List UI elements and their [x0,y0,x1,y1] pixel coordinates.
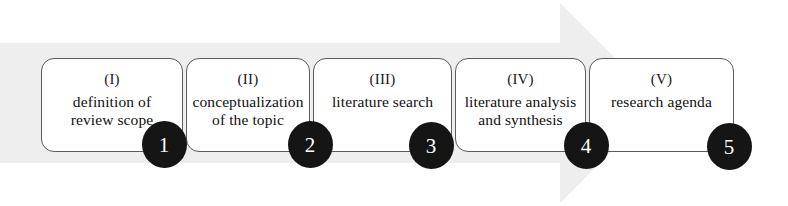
stage-3-roman-numeral: (III) [370,70,396,89]
stage-number-badge-3: 3 [409,122,454,169]
stage-number-badge-4-text: 4 [581,136,592,157]
stage-number-badge-4: 4 [564,122,609,169]
stage-1-roman-numeral: (I) [104,70,120,89]
stage-number-badge-5-text: 5 [724,137,735,158]
stage-2-label: conceptualization of the topic [192,93,303,129]
process-flow-diagram: (I) definition of review scope (II) conc… [0,0,788,206]
stage-4-label: literature analysis and synthesis [465,93,577,129]
stage-number-badge-2-text: 2 [305,135,316,156]
stage-number-badge-2: 2 [288,121,333,168]
stage-number-badge-1-text: 1 [159,135,170,156]
stage-1-label: definition of review scope [71,93,154,129]
stage-number-badge-1: 1 [142,121,187,168]
stage-5-label: research agenda [611,93,712,111]
stage-4-roman-numeral: (IV) [507,70,534,89]
stage-5-roman-numeral: (V) [651,70,672,89]
stage-number-badge-3-text: 3 [426,136,437,157]
stage-2-roman-numeral: (II) [238,70,259,89]
stage-3-label: literature search [332,93,433,111]
stage-number-badge-5: 5 [707,123,752,170]
